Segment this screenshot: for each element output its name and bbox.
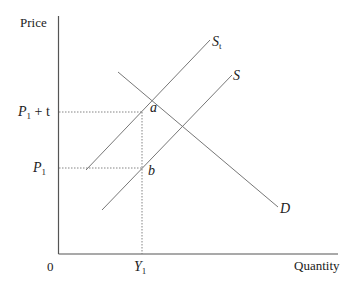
supply-curve: [102, 75, 232, 210]
supply-with-tax-curve: [86, 40, 210, 170]
price-p1-label: P1: [32, 160, 46, 177]
price-tax-label: P1 + t: [17, 104, 50, 121]
supply-with-tax-label: St: [212, 34, 222, 51]
quantity-y1-label: Y1: [134, 259, 146, 276]
supply-label: S: [233, 68, 240, 83]
demand-label: D: [279, 201, 290, 216]
y-axis-label: Price: [20, 15, 47, 30]
point-a-label: a: [150, 100, 157, 115]
origin-label: 0: [47, 259, 54, 274]
point-b-label: b: [148, 163, 155, 178]
supply-demand-diagram: Price Quantity 0 St S D a b P1 + t P1 Y1: [0, 0, 358, 284]
x-axis-label: Quantity: [294, 258, 340, 273]
